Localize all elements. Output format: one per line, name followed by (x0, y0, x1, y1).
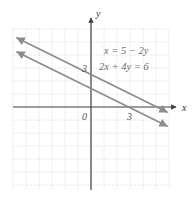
y-axis-label: y (95, 8, 101, 19)
coordinate-plane-svg: y x 0 3 3 x = 5 − 2y 2x + 4y = 6 (0, 0, 194, 197)
y-tick-label-3: 3 (81, 63, 87, 74)
x-axis-label: x (181, 102, 187, 113)
x-tick-label-3: 3 (126, 111, 132, 122)
origin-label: 0 (82, 111, 87, 122)
equation-label-first: x = 5 − 2y (103, 45, 149, 56)
graph-figure: y x 0 3 3 x = 5 − 2y 2x + 4y = 6 (0, 0, 194, 197)
equation-label-second: 2x + 4y = 6 (99, 61, 149, 72)
